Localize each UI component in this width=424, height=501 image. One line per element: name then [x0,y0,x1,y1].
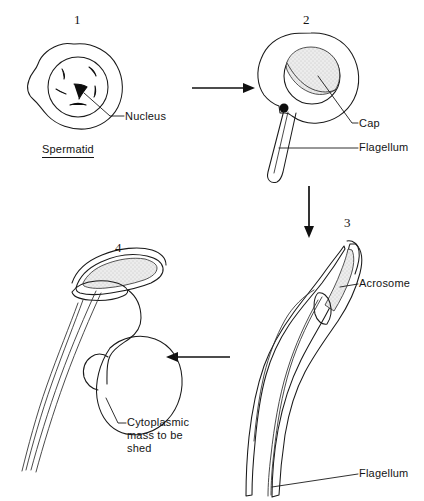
stage-2-cell [258,33,359,183]
label-nucleus: Nucleus [125,110,166,123]
stage2-flagellum [268,110,296,183]
label-cytoplasmic-mass: Cytoplasmic mass to be shed [127,416,189,455]
stage4-tail-line-2 [36,293,101,472]
stage4-tail-line-4 [22,303,78,471]
stage-number-4: 4 [115,240,122,256]
label-acrosome: Acrosome [359,277,410,290]
stage2-acrosomal-cap [286,47,339,94]
stage3-axoneme-line-a [271,297,322,495]
stage1-nucleus-leader [84,93,124,116]
stage3-collar [314,293,331,324]
stage-number-2: 2 [303,12,310,28]
stage-number-3: 3 [344,215,351,231]
stage-1-cell [28,44,124,130]
spermiogenesis-diagram: 1 2 3 4 Nucleus Spermatid Cap Flagellum … [0,0,424,501]
stage4-cytoplasm-tail-junction [83,354,108,390]
stage3-axoneme-line-b [268,300,318,496]
stage-3-cell [246,241,362,497]
stage3-flagellum-leader [272,474,358,487]
arrow-stage2-to-stage3 [304,186,314,238]
label-flagellum-stage2: Flagellum [359,141,409,154]
label-spermatid: Spermatid [42,143,94,158]
label-cap: Cap [359,117,380,130]
stage1-chromatin-marks [56,67,96,105]
label-flagellum-stage3: Flagellum [359,467,409,480]
stage4-tail-line-3 [26,300,83,470]
stage4-tail-line-1 [31,291,96,470]
stage4-neck [107,290,141,384]
stage4-cytoplasm-leader [106,398,126,423]
stage-number-1: 1 [74,12,81,28]
diagram-canvas [0,0,424,501]
arrow-stage1-to-stage2 [192,83,255,93]
stage3-cytoplasm-sweep [254,290,314,441]
